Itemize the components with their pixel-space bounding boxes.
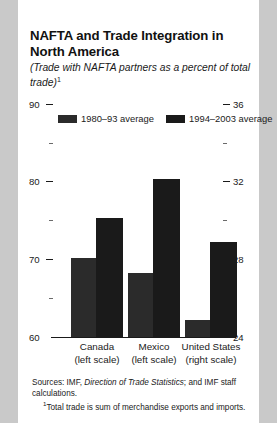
left-axis-tick-label-60: 60 bbox=[29, 332, 40, 343]
left-axis-tick-80 bbox=[46, 181, 53, 182]
x-axis-baseline bbox=[51, 337, 236, 338]
category-scale-united-states: (right scale) bbox=[166, 354, 256, 367]
bar-united-states-1994-2003 bbox=[210, 242, 237, 337]
bar-group-united-states bbox=[185, 104, 237, 337]
bar-mexico-1980-93 bbox=[128, 273, 155, 337]
bar-group-mexico bbox=[128, 104, 180, 337]
bar-canada-1980-93 bbox=[71, 258, 98, 337]
bar-group-canada bbox=[71, 104, 123, 337]
bar-united-states-1980-93 bbox=[185, 320, 212, 337]
plot-area: 90 80 70 60 36 32 28 24 1980–93 average bbox=[18, 0, 259, 423]
left-axis-tick-70 bbox=[46, 259, 53, 260]
left-axis-tick-label-70: 70 bbox=[29, 254, 40, 265]
left-axis-tick-label-80: 80 bbox=[29, 176, 40, 187]
category-name-united-states: United States bbox=[166, 341, 256, 354]
sources-note: Sources: IMF, Direction of Trade Statist… bbox=[32, 378, 246, 399]
footnote-text: Total trade is sum of merchandise export… bbox=[46, 403, 245, 412]
left-axis-minor-tick-65 bbox=[49, 298, 53, 299]
bar-mexico-1994-2003 bbox=[153, 179, 180, 337]
left-axis-minor-tick-75 bbox=[49, 220, 53, 221]
left-axis-tick-label-90: 90 bbox=[29, 99, 40, 110]
chart-notes: Sources: IMF, Direction of Trade Statist… bbox=[32, 378, 246, 414]
figure-panel: NAFTA and Trade Integration in North Ame… bbox=[18, 0, 259, 423]
sources-publication: Direction of Trade Statistics bbox=[84, 378, 184, 387]
left-axis-minor-tick-85 bbox=[49, 143, 53, 144]
category-label-united-states: United States (right scale) bbox=[166, 341, 256, 366]
footnote-1: 1Total trade is sum of merchandise expor… bbox=[32, 399, 246, 413]
sources-label: Sources: IMF, bbox=[32, 378, 82, 387]
left-axis-tick-90 bbox=[46, 104, 53, 105]
bar-canada-1994-2003 bbox=[96, 218, 123, 337]
